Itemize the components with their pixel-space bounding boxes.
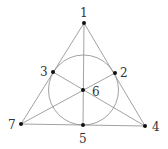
point-label-7: 7 bbox=[8, 118, 16, 132]
fano-plane-diagram: 1234567 bbox=[0, 0, 168, 149]
point-label-5: 5 bbox=[79, 132, 87, 146]
point-5 bbox=[81, 123, 85, 127]
point-3 bbox=[51, 70, 55, 74]
line-1-6-5 bbox=[83, 23, 84, 125]
point-6 bbox=[81, 88, 85, 92]
point-2 bbox=[113, 71, 117, 75]
point-7 bbox=[19, 122, 23, 126]
point-4 bbox=[143, 124, 147, 128]
point-label-2: 2 bbox=[120, 66, 128, 80]
point-label-4: 4 bbox=[152, 120, 160, 134]
point-label-6: 6 bbox=[92, 85, 100, 99]
point-label-3: 3 bbox=[40, 65, 48, 79]
point-label-1: 1 bbox=[80, 6, 88, 20]
point-1 bbox=[82, 21, 86, 25]
